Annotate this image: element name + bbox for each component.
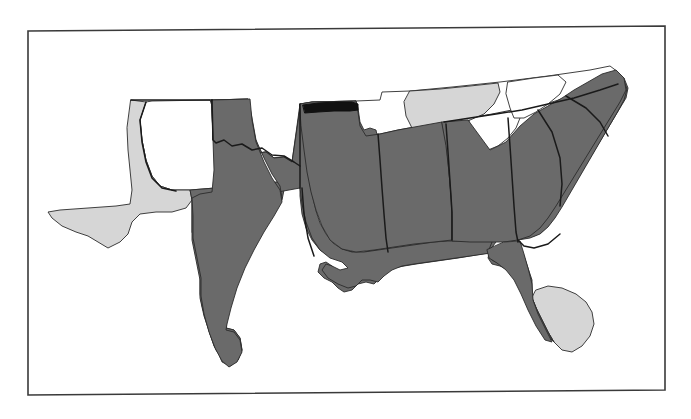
choropleth-map — [0, 0, 691, 419]
layer-peak-shading — [303, 102, 358, 113]
map-page — [0, 0, 691, 419]
region-arkansas-north-band — [303, 102, 358, 113]
